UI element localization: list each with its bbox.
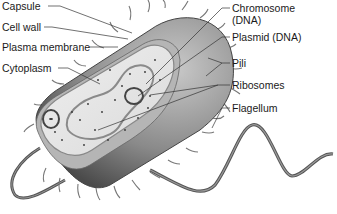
label-ribosomes: Ribosomes	[232, 79, 285, 91]
label-plasma-membrane: Plasma membrane	[2, 41, 90, 53]
label-cell-wall: Cell wall	[2, 21, 41, 33]
bacterial-cell-diagram: Capsule Cell wall Plasma membrane Cytopl…	[0, 0, 337, 214]
label-pili: Pili	[232, 57, 246, 69]
label-capsule: Capsule	[2, 0, 41, 12]
label-chromosome: Chromosome	[232, 2, 295, 14]
label-chromosome-dna: (DNA)	[232, 14, 261, 26]
label-flagellum: Flagellum	[232, 102, 278, 114]
label-cytoplasm: Cytoplasm	[2, 62, 52, 74]
label-plasmid: Plasmid (DNA)	[232, 31, 301, 43]
